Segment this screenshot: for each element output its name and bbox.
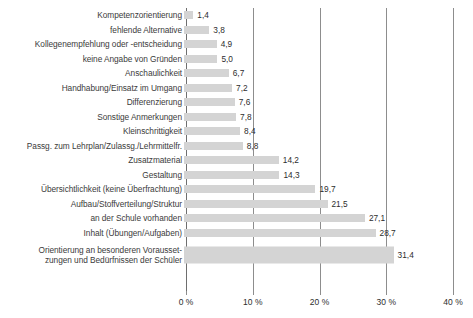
bar-value-label: 1,4 <box>197 10 209 20</box>
bar-zone: 5,0 <box>184 52 473 67</box>
category-label: Passg. zum Lehrplan/Zulassg./Lehrmittelf… <box>0 141 184 151</box>
bar-zone: 1,4 <box>184 8 473 23</box>
x-tick-30pct <box>386 291 387 295</box>
bar-value-label: 8,4 <box>244 126 256 136</box>
x-tick-10pct <box>253 291 254 295</box>
bar-zone: 21,5 <box>184 197 473 212</box>
bar-row: Sonstige Anmerkungen7,8 <box>0 110 473 125</box>
category-label: keine Angabe von Gründen <box>0 54 184 64</box>
bar-value-label: 6,7 <box>233 68 245 78</box>
bar <box>184 200 328 208</box>
category-label: Zusatzmaterial <box>0 155 184 165</box>
bar-row: Übersichtlichkeit (keine Überfrachtung)1… <box>0 182 473 197</box>
category-label: fehlende Alternative <box>0 25 184 35</box>
bar-row: Differenzierung7,6 <box>0 95 473 110</box>
x-tick-label: 40 % <box>443 297 462 307</box>
bar-row: Kollegenempfehlung oder -entscheidung4,9 <box>0 37 473 52</box>
bar-value-label: 7,8 <box>240 112 252 122</box>
category-label: Kollegenempfehlung oder -entscheidung <box>0 39 184 49</box>
bar-row: Orientierung an besonderen Vorausset- zu… <box>0 240 473 269</box>
bar-row: Inhalt (Übungen/Aufgaben)28,7 <box>0 226 473 241</box>
bar <box>184 55 217 63</box>
bar <box>184 214 365 222</box>
bar <box>184 26 209 34</box>
bar <box>184 229 376 237</box>
bar-chart: Kompetenzorientierung1,4fehlende Alterna… <box>0 0 473 318</box>
bar <box>184 156 279 164</box>
category-label: Aufbau/Stoffverteilung/Struktur <box>0 199 184 209</box>
bar-row: Zusatzmaterial14,2 <box>0 153 473 168</box>
bar-row: Aufbau/Stoffverteilung/Struktur21,5 <box>0 197 473 212</box>
bar-zone: 7,8 <box>184 110 473 125</box>
bar-value-label: 21,5 <box>332 199 348 209</box>
category-label: Handhabung/Einsatz im Umgang <box>0 83 184 93</box>
x-axis: 0 %10 %20 %30 %40 % <box>186 291 453 318</box>
bar-value-label: 19,7 <box>319 184 335 194</box>
bar <box>184 127 240 135</box>
bar <box>184 11 193 19</box>
bar-value-label: 28,7 <box>380 228 396 238</box>
bar-zone: 19,7 <box>184 182 473 197</box>
category-label: Sonstige Anmerkungen <box>0 112 184 122</box>
bar-zone: 14,3 <box>184 168 473 183</box>
bar <box>184 171 279 179</box>
bar-zone: 3,8 <box>184 23 473 38</box>
category-label: Kleinschrittigkeit <box>0 126 184 136</box>
bar-value-label: 31,4 <box>398 250 414 260</box>
bar-row: an der Schule vorhanden27,1 <box>0 211 473 226</box>
bar <box>184 113 236 121</box>
bar <box>184 40 217 48</box>
bar-rows: Kompetenzorientierung1,4fehlende Alterna… <box>0 8 473 269</box>
x-tick-label: 0 % <box>179 297 194 307</box>
bar-zone: 6,7 <box>184 66 473 81</box>
category-label: Inhalt (Übungen/Aufgaben) <box>0 228 184 238</box>
bar-zone: 7,6 <box>184 95 473 110</box>
bar-value-label: 7,2 <box>236 83 248 93</box>
x-tick-40pct <box>453 291 454 295</box>
bar <box>184 246 394 263</box>
bar <box>184 69 229 77</box>
bar-value-label: 3,8 <box>213 25 225 35</box>
bar-row: Passg. zum Lehrplan/Zulassg./Lehrmittelf… <box>0 139 473 154</box>
bar-value-label: 4,9 <box>221 39 233 49</box>
category-label: Gestaltung <box>0 170 184 180</box>
x-tick-0pct <box>186 291 187 295</box>
x-tick-label: 30 % <box>377 297 396 307</box>
bar-zone: 8,4 <box>184 124 473 139</box>
bar-row: Gestaltung14,3 <box>0 168 473 183</box>
bar-value-label: 14,2 <box>283 155 299 165</box>
category-label: Übersichtlichkeit (keine Überfrachtung) <box>0 184 184 194</box>
bar <box>184 98 235 106</box>
category-label: an der Schule vorhanden <box>0 213 184 223</box>
bar-zone: 4,9 <box>184 37 473 52</box>
bar-zone: 14,2 <box>184 153 473 168</box>
bar-row: Kompetenzorientierung1,4 <box>0 8 473 23</box>
bar-row: Anschaulichkeit6,7 <box>0 66 473 81</box>
bar-row: Kleinschrittigkeit8,4 <box>0 124 473 139</box>
bar-value-label: 8,8 <box>247 141 259 151</box>
x-tick-20pct <box>320 291 321 295</box>
bar-value-label: 14,3 <box>283 170 299 180</box>
category-label: Kompetenzorientierung <box>0 10 184 20</box>
x-tick-label: 20 % <box>310 297 329 307</box>
bar-row: Handhabung/Einsatz im Umgang7,2 <box>0 81 473 96</box>
bar-zone: 28,7 <box>184 226 473 241</box>
bar-row: keine Angabe von Gründen5,0 <box>0 52 473 67</box>
category-label: Orientierung an besonderen Vorausset- zu… <box>0 245 184 265</box>
bar-value-label: 7,6 <box>239 97 251 107</box>
bar-zone: 7,2 <box>184 81 473 96</box>
category-label: Differenzierung <box>0 97 184 107</box>
bar-value-label: 5,0 <box>221 54 233 64</box>
bar-zone: 27,1 <box>184 211 473 226</box>
bar <box>184 142 243 150</box>
bar <box>184 84 232 92</box>
bar-zone: 31,4 <box>184 240 473 269</box>
bar <box>184 185 315 193</box>
bar-zone: 8,8 <box>184 139 473 154</box>
x-tick-label: 10 % <box>243 297 262 307</box>
bar-value-label: 27,1 <box>369 213 385 223</box>
bar-row: fehlende Alternative3,8 <box>0 23 473 38</box>
category-label: Anschaulichkeit <box>0 68 184 78</box>
